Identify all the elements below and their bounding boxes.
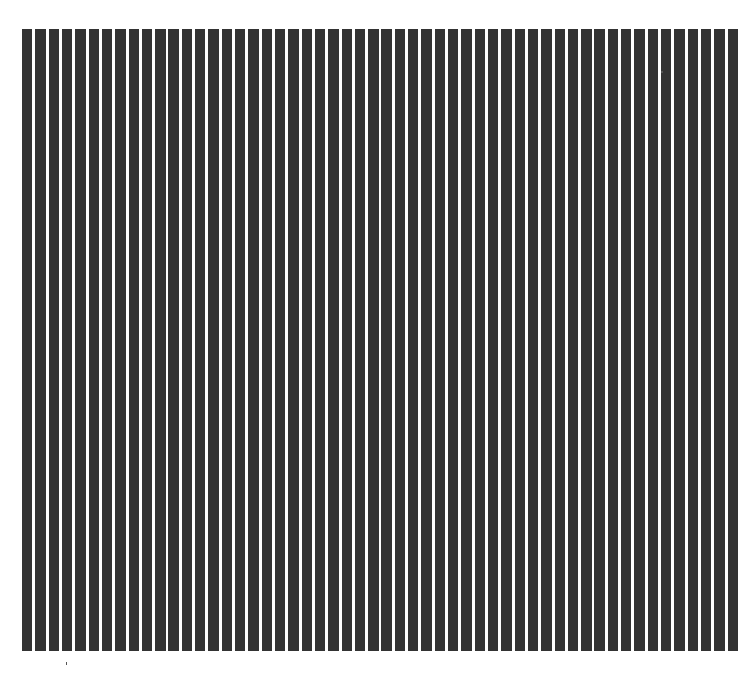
vertical-bar-grating <box>22 29 738 651</box>
grating-bar <box>688 29 698 651</box>
grating-bar <box>222 29 232 651</box>
grating-bar <box>235 29 245 651</box>
grating-bar <box>581 29 591 651</box>
grating-bar <box>155 29 165 651</box>
grating-bar <box>142 29 152 651</box>
grating-bar <box>568 29 578 651</box>
grating-bar <box>302 29 312 651</box>
grating-bar <box>594 29 604 651</box>
grating-bar <box>168 29 178 651</box>
grating-bar <box>608 29 618 651</box>
grating-bar <box>648 29 658 651</box>
grating-bar <box>262 29 272 651</box>
grating-bar <box>208 29 218 651</box>
grating-bar <box>129 29 139 651</box>
grating-bar <box>381 29 391 651</box>
grating-bar <box>714 29 724 651</box>
grating-bar <box>448 29 458 651</box>
grating-bar <box>408 29 418 651</box>
grating-bar <box>328 29 338 651</box>
grating-bar <box>541 29 551 651</box>
grating-bar <box>288 29 298 651</box>
grating-bar <box>75 29 85 651</box>
grating-bar <box>555 29 565 651</box>
grating-bar <box>102 29 112 651</box>
grating-bar <box>115 29 125 651</box>
grating-bar <box>182 29 192 651</box>
grating-bar <box>515 29 525 651</box>
grating-bar <box>634 29 644 651</box>
grating-bar <box>49 29 59 651</box>
grating-bar <box>501 29 511 651</box>
grating-bar <box>35 29 45 651</box>
grating-bar <box>674 29 684 651</box>
grating-bar <box>661 29 671 651</box>
speck-mark <box>661 71 663 73</box>
grating-bar <box>22 29 32 651</box>
grating-bar <box>248 29 258 651</box>
grating-bar <box>342 29 352 651</box>
grating-bar <box>275 29 285 651</box>
grating-bar <box>488 29 498 651</box>
grating-bar <box>89 29 99 651</box>
grating-bar <box>62 29 72 651</box>
grating-bar <box>728 29 738 651</box>
grating-bar <box>395 29 405 651</box>
grating-bar <box>528 29 538 651</box>
speck-mark <box>66 662 67 665</box>
grating-bar <box>355 29 365 651</box>
grating-bar <box>701 29 711 651</box>
grating-bar <box>475 29 485 651</box>
grating-bar <box>195 29 205 651</box>
grating-bar <box>421 29 431 651</box>
grating-bar <box>435 29 445 651</box>
grating-bar <box>461 29 471 651</box>
grating-bar <box>315 29 325 651</box>
grating-bar <box>621 29 631 651</box>
grating-bar <box>368 29 378 651</box>
